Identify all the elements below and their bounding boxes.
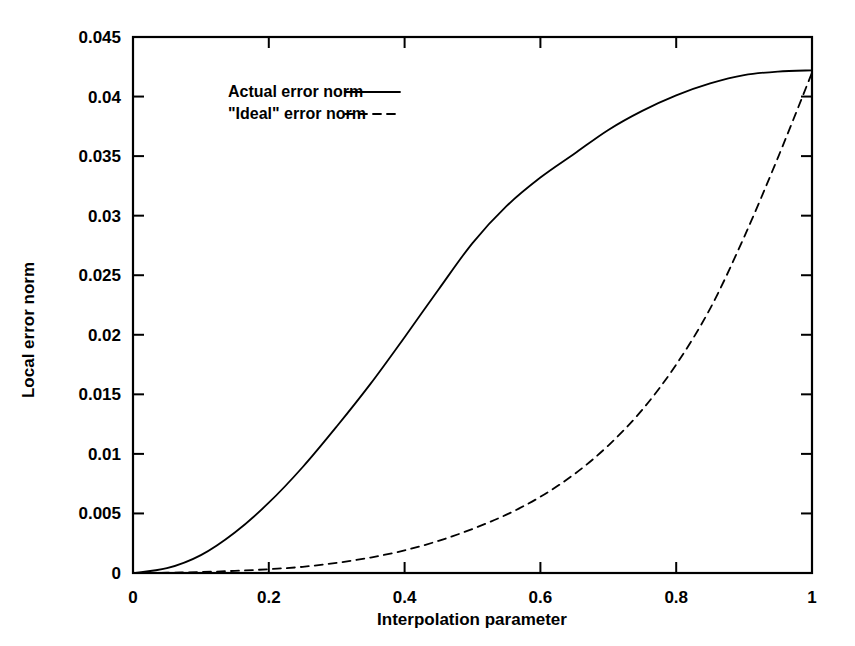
y-tick-label: 0.015 [78,385,121,404]
y-tick-label: 0.025 [78,266,121,285]
y-tick-label: 0 [112,564,121,583]
legend-label-actual: Actual error norm [228,83,363,100]
x-axis-title: Interpolation parameter [377,610,567,629]
x-tick-label: 0.6 [529,588,553,607]
legend: Actual error norm "Ideal" error norm [228,83,400,122]
y-tick-label: 0.035 [78,147,121,166]
y-tick-label: 0.02 [88,326,121,345]
y-axis-title: Local error norm [19,262,38,398]
y-tick-label: 0.01 [88,445,121,464]
y-tick-label: 0.045 [78,28,121,47]
x-tick-label: 0 [128,588,137,607]
y-axis-tick-labels: 00.0050.010.0150.020.0250.030.0350.040.0… [78,28,121,583]
x-tick-label: 0.2 [257,588,281,607]
y-tick-label: 0.005 [78,504,121,523]
x-axis-tick-labels: 00.20.40.60.81 [128,588,816,607]
y-tick-label: 0.03 [88,207,121,226]
x-tick-label: 1 [807,588,816,607]
x-tick-label: 0.4 [393,588,417,607]
chart-figure: 00.0050.010.0150.020.0250.030.0350.040.0… [0,0,855,646]
series-ideal-error-norm [133,73,812,573]
x-tick-label: 0.8 [664,588,688,607]
y-tick-label: 0.04 [88,88,122,107]
series-actual-error-norm [133,70,812,573]
line-chart: 00.0050.010.0150.020.0250.030.0350.040.0… [0,0,855,646]
